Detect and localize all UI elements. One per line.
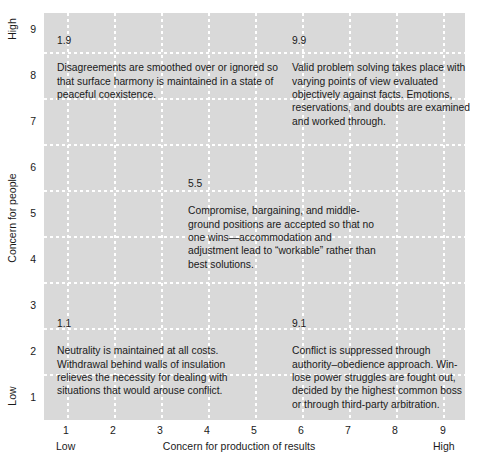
grid-cell-9-9: 9.9 Valid problem solving takes place wi… [292,21,472,142]
grid-cell-code: 9.9 [292,34,472,47]
grid-cell-code: 1.1 [57,317,232,330]
y-axis-tick-9: 9 [22,23,36,35]
grid-cell-text: Conflict is suppressed through authority… [292,344,472,411]
grid-cell-code: 5.5 [188,177,378,190]
y-axis-tick-1: 1 [22,391,36,403]
x-axis-tick-7: 7 [338,424,358,436]
grid-cell-text: Compromise, bargaining, and middle-groun… [188,204,378,271]
grid-cell-text: Disagreements are smoothed over or ignor… [57,61,289,101]
x-axis-tick-3: 3 [150,424,170,436]
x-axis-title: Concern for production of results [0,440,478,452]
grid-cell-text: Neutrality is maintained at all costs. W… [57,344,232,398]
grid-plot-area: 1.9 Disagreements are smoothed over or i… [44,13,465,420]
y-axis-tick-2: 2 [22,345,36,357]
x-axis-tick-6: 6 [291,424,311,436]
grid-cell-text: Valid problem solving takes place with v… [292,61,472,128]
grid-cell-code: 1.9 [57,34,289,47]
y-axis-high-label: High [6,9,18,49]
y-axis-tick-5: 5 [22,207,36,219]
gridline-horizontal [44,144,465,146]
y-axis-tick-6: 6 [22,161,36,173]
x-axis-tick-4: 4 [197,424,217,436]
grid-cell-code: 9.1 [292,317,472,330]
x-axis-tick-1: 1 [56,424,76,436]
x-axis-tick-5: 5 [244,424,264,436]
grid-cell-1-1: 1.1 Neutrality is maintained at all cost… [57,304,232,411]
x-axis-tick-2: 2 [103,424,123,436]
x-axis-tick-8: 8 [385,424,405,436]
grid-cell-5-5: 5.5 Compromise, bargaining, and middle-g… [188,164,378,285]
x-axis-tick-9: 9 [433,424,453,436]
y-axis-low-label: Low [6,376,18,416]
y-axis-tick-3: 3 [22,299,36,311]
grid-cell-1-9: 1.9 Disagreements are smoothed over or i… [57,21,289,115]
y-axis-tick-4: 4 [22,253,36,265]
y-axis-tick-7: 7 [22,115,36,127]
y-axis-tick-8: 8 [22,69,36,81]
y-axis-title: Concern for people [6,153,18,283]
grid-cell-9-1: 9.1 Conflict is suppressed through autho… [292,304,472,425]
